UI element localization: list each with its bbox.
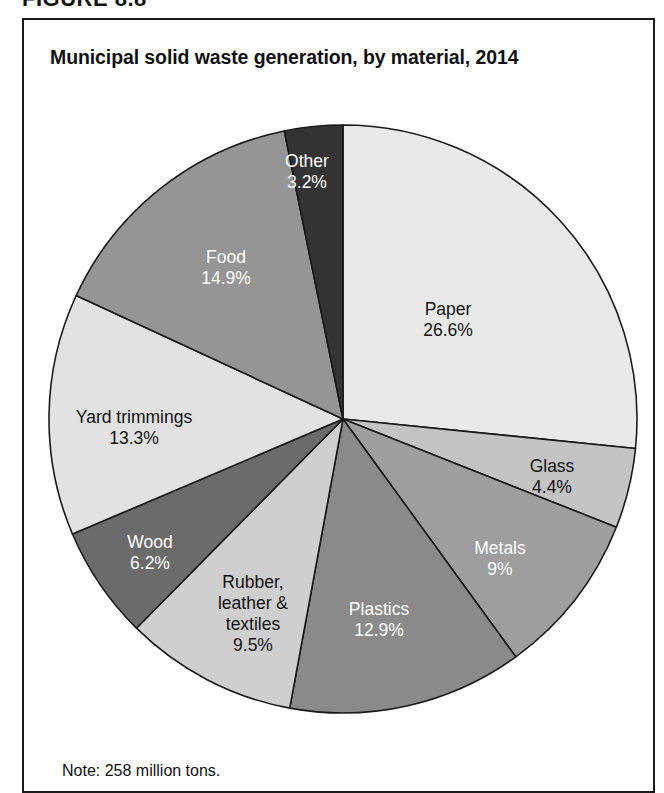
figure-number: FIGURE 8.8: [22, 0, 147, 12]
figure-box: Municipal solid waste generation, by mat…: [22, 18, 655, 793]
chart-title: Municipal solid waste generation, by mat…: [50, 46, 518, 69]
chart-note: Note: 258 million tons.: [62, 762, 220, 780]
